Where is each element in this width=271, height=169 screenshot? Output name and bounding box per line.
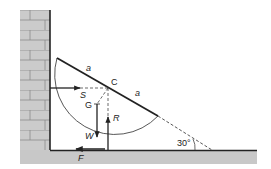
label-a-upper: a <box>86 63 91 73</box>
flat-face <box>57 58 158 116</box>
diagram-stage: a C a S G R W F 30° <box>0 0 271 169</box>
brick-wall <box>20 10 50 151</box>
label-a-lower: a <box>135 88 140 98</box>
label-S: S <box>80 90 86 100</box>
label-R: R <box>113 113 120 123</box>
CG-dashed-line <box>97 88 108 104</box>
hemisphere-statics-diagram: a C a S G R W F 30° <box>0 0 271 169</box>
label-W: W <box>85 131 95 141</box>
ground <box>20 150 257 164</box>
label-F: F <box>78 153 84 163</box>
hemisphere-arc <box>55 58 158 134</box>
label-angle: 30° <box>177 138 191 148</box>
angle-arc <box>193 139 195 150</box>
label-G: G <box>85 100 92 110</box>
label-C: C <box>111 77 118 87</box>
